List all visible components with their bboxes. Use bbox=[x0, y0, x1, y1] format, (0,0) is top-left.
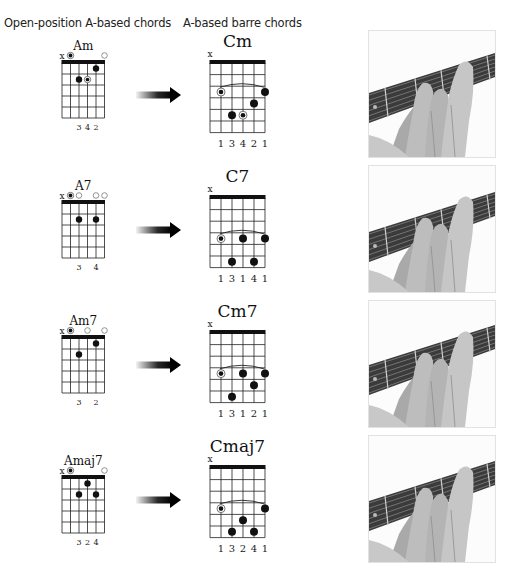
hand-photo bbox=[369, 166, 495, 292]
finger-dot bbox=[239, 516, 247, 524]
finger-number: 1 bbox=[218, 273, 224, 284]
finger-dot bbox=[261, 235, 269, 243]
nut bbox=[210, 60, 266, 64]
barre-arc bbox=[220, 500, 264, 503]
finger-number: 4 bbox=[93, 263, 98, 272]
muted-string-icon: x bbox=[207, 319, 212, 329]
barre-arc bbox=[220, 365, 264, 368]
chord-diagram: Cmx13421 bbox=[200, 30, 275, 151]
muted-string-icon: x bbox=[207, 49, 212, 59]
finger-number: 3 bbox=[229, 138, 235, 149]
arrow-right-icon bbox=[134, 219, 184, 241]
root-note-dot bbox=[219, 236, 224, 241]
chord-name: Cm7 bbox=[218, 301, 258, 321]
muted-string-icon: x bbox=[207, 454, 212, 464]
chord-name: Am7 bbox=[68, 314, 97, 328]
heading-open-position: Open-position A-based chords bbox=[4, 16, 171, 30]
open-string-icon bbox=[102, 53, 108, 59]
chord-name: Cm bbox=[223, 31, 252, 51]
barre-chord-cm7: Cm7x13121 bbox=[200, 300, 275, 421]
arrow-right-icon bbox=[134, 489, 184, 511]
open-chord-am: Amx342 bbox=[52, 38, 115, 136]
chord-name: Cmaj7 bbox=[210, 436, 265, 456]
muted-string-icon: x bbox=[59, 326, 64, 336]
photo-hand-fretting-Cm7 bbox=[368, 300, 496, 428]
finger-number: 3 bbox=[76, 263, 81, 272]
muted-string-icon: x bbox=[207, 184, 212, 194]
finger-dot bbox=[228, 393, 236, 401]
root-open-string-icon bbox=[69, 469, 73, 473]
root-note-dot bbox=[219, 506, 224, 511]
finger-dot bbox=[93, 491, 99, 497]
chord-diagram: A7x34 bbox=[52, 178, 115, 276]
open-chord-amaj7: Amaj7x324 bbox=[52, 453, 115, 551]
finger-number: 2 bbox=[251, 138, 257, 149]
open-chord-a7: A7x34 bbox=[52, 178, 115, 276]
nut bbox=[62, 200, 106, 204]
finger-dot bbox=[76, 216, 82, 222]
finger-number: 2 bbox=[93, 398, 98, 407]
finger-number: 3 bbox=[76, 538, 81, 547]
finger-number: 1 bbox=[218, 543, 224, 554]
finger-dot bbox=[76, 491, 82, 497]
hand-photo bbox=[369, 436, 495, 562]
barre-arc bbox=[220, 230, 264, 233]
chord-diagram: Amaj7x324 bbox=[52, 453, 115, 551]
finger-number: 1 bbox=[218, 138, 224, 149]
hand-photo bbox=[369, 301, 495, 427]
open-string-icon bbox=[102, 468, 108, 474]
finger-dot bbox=[93, 340, 99, 346]
finger-dot bbox=[228, 111, 236, 119]
nut bbox=[210, 195, 266, 199]
finger-number: 4 bbox=[240, 138, 246, 149]
finger-dot bbox=[261, 88, 269, 96]
barre-chord-c7: C7x13141 bbox=[200, 165, 275, 286]
chord-name: Amaj7 bbox=[63, 454, 103, 468]
finger-number: 2 bbox=[240, 543, 246, 554]
nut bbox=[62, 475, 106, 479]
open-chord-am7: Am7x32 bbox=[52, 313, 115, 411]
finger-dot bbox=[239, 235, 247, 243]
finger-number: 1 bbox=[262, 408, 268, 419]
muted-string-icon: x bbox=[59, 191, 64, 201]
photo-hand-fretting-Cm bbox=[368, 30, 496, 158]
root-note-dot bbox=[241, 113, 246, 118]
finger-number: 2 bbox=[93, 123, 98, 132]
chord-name: Am bbox=[72, 39, 94, 53]
muted-string-icon: x bbox=[59, 466, 64, 476]
heading-barre-chords: A-based barre chords bbox=[183, 16, 302, 30]
finger-dot bbox=[228, 258, 236, 266]
finger-number: 1 bbox=[262, 543, 268, 554]
finger-number: 3 bbox=[229, 543, 235, 554]
finger-dot bbox=[250, 258, 258, 266]
barre-arc bbox=[220, 84, 264, 87]
nut bbox=[62, 60, 106, 64]
finger-dot bbox=[76, 351, 82, 357]
finger-number: 1 bbox=[262, 138, 268, 149]
finger-dot bbox=[261, 505, 269, 513]
finger-number: 4 bbox=[85, 123, 90, 132]
nut bbox=[62, 335, 106, 339]
finger-number: 4 bbox=[251, 273, 257, 284]
finger-dot bbox=[93, 216, 99, 222]
root-open-string-icon bbox=[69, 54, 73, 58]
open-string-icon bbox=[76, 193, 82, 199]
root-note-dot bbox=[219, 90, 224, 95]
root-note-dot bbox=[86, 78, 90, 82]
finger-number: 3 bbox=[229, 408, 235, 419]
photo-hand-fretting-C7 bbox=[368, 165, 496, 293]
hand-photo bbox=[369, 31, 495, 157]
open-string-icon bbox=[102, 193, 108, 199]
finger-dot bbox=[239, 370, 247, 378]
finger-number: 3 bbox=[76, 398, 81, 407]
chord-diagram: Cm7x13121 bbox=[200, 300, 275, 421]
finger-number: 1 bbox=[240, 273, 246, 284]
finger-number: 4 bbox=[93, 538, 98, 547]
root-open-string-icon bbox=[69, 329, 73, 333]
finger-dot bbox=[250, 100, 258, 108]
chord-name: A7 bbox=[74, 179, 91, 193]
finger-dot bbox=[250, 381, 258, 389]
finger-dot bbox=[76, 76, 82, 82]
finger-dot bbox=[261, 370, 269, 378]
chord-diagram: Am7x32 bbox=[52, 313, 115, 411]
